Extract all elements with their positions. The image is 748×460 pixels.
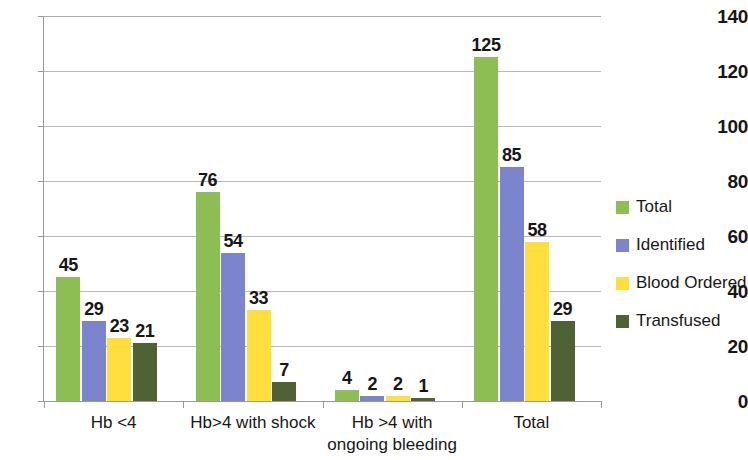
y-axis-tick-mark bbox=[38, 181, 44, 182]
legend-item[interactable]: Identified bbox=[616, 236, 747, 274]
x-axis-tick-mark bbox=[601, 401, 602, 408]
x-axis-tick-mark bbox=[323, 401, 324, 408]
bar-value-label: 29 bbox=[84, 300, 103, 318]
legend-swatch-icon bbox=[616, 239, 629, 252]
bar: 58 bbox=[525, 242, 549, 402]
x-axis-category-label: Hb <4 bbox=[44, 412, 183, 434]
plot-area: 4529232176543374221125855829 bbox=[44, 16, 601, 401]
legend-swatch-icon bbox=[616, 315, 629, 328]
x-axis-category-label-line: Hb>4 with shock bbox=[183, 412, 322, 434]
x-axis-category-label-line: Total bbox=[462, 412, 601, 434]
bar-value-label: 1 bbox=[419, 377, 429, 395]
y-axis-tick-mark bbox=[38, 71, 44, 72]
y-axis-line bbox=[43, 16, 44, 402]
y-axis-tick-mark bbox=[38, 291, 44, 292]
legend-label: Transfused bbox=[636, 312, 720, 330]
legend-swatch-icon bbox=[616, 201, 629, 214]
bar: 85 bbox=[500, 167, 524, 401]
bar: 7 bbox=[272, 382, 296, 401]
bar: 23 bbox=[107, 338, 131, 401]
y-axis-tick-mark bbox=[38, 126, 44, 127]
bar-value-label: 54 bbox=[223, 232, 242, 250]
bar-value-label: 76 bbox=[198, 171, 217, 189]
y-axis-tick-label: 140 bbox=[712, 7, 748, 26]
x-axis-tick-mark bbox=[462, 401, 463, 408]
legend-label: Identified bbox=[636, 236, 705, 254]
bar-value-label: 29 bbox=[553, 300, 572, 318]
x-axis-category-label-line: ongoing bleeding bbox=[323, 434, 462, 456]
y-axis-tick-label: 100 bbox=[712, 117, 748, 136]
gridline bbox=[44, 16, 601, 17]
y-axis-tick-mark bbox=[38, 16, 44, 17]
bar-value-label: 45 bbox=[59, 256, 78, 274]
bar-value-label: 21 bbox=[135, 322, 154, 340]
gridline bbox=[44, 71, 601, 72]
x-axis-tick-mark bbox=[44, 401, 45, 408]
bar: 29 bbox=[82, 321, 106, 401]
bar-value-label: 2 bbox=[368, 375, 378, 393]
x-axis-category-label: Total bbox=[462, 412, 601, 434]
legend-item[interactable]: Transfused bbox=[616, 312, 747, 350]
x-axis-category-label-line: Hb <4 bbox=[44, 412, 183, 434]
gridline bbox=[44, 126, 601, 127]
bar: 76 bbox=[196, 192, 220, 401]
legend-label: Blood Ordered bbox=[636, 274, 747, 292]
bar: 125 bbox=[474, 57, 498, 401]
bar: 29 bbox=[551, 321, 575, 401]
bar-value-label: 4 bbox=[342, 369, 352, 387]
bar: 54 bbox=[221, 253, 245, 402]
bar-value-label: 23 bbox=[110, 317, 129, 335]
bar-value-label: 85 bbox=[502, 146, 521, 164]
y-axis-tick-label: 120 bbox=[712, 62, 748, 81]
bar-chart: 4529232176543374221125855829 02040608010… bbox=[0, 0, 748, 460]
legend-item[interactable]: Total bbox=[616, 198, 747, 236]
bar-value-label: 2 bbox=[393, 375, 403, 393]
bar-value-label: 33 bbox=[249, 289, 268, 307]
legend-item[interactable]: Blood Ordered bbox=[616, 274, 747, 312]
bar-value-label: 7 bbox=[279, 361, 289, 379]
bar: 21 bbox=[133, 343, 157, 401]
legend-swatch-icon bbox=[616, 277, 629, 290]
y-axis-tick-label: 80 bbox=[712, 172, 748, 191]
bar-value-label: 58 bbox=[527, 221, 546, 239]
y-axis-tick-mark bbox=[38, 236, 44, 237]
x-axis-tick-mark bbox=[183, 401, 184, 408]
chart-legend: TotalIdentifiedBlood OrderedTransfused bbox=[616, 198, 747, 350]
y-axis-tick-mark bbox=[38, 346, 44, 347]
bar: 4 bbox=[335, 390, 359, 401]
x-axis-category-label: Hb>4 with shock bbox=[183, 412, 322, 434]
x-axis-category-label: Hb >4 withongoing bleeding bbox=[323, 412, 462, 456]
bar: 33 bbox=[247, 310, 271, 401]
y-axis-tick-label: 0 bbox=[712, 392, 748, 411]
bar: 45 bbox=[56, 277, 80, 401]
x-axis-category-label-line: Hb >4 with bbox=[323, 412, 462, 434]
legend-label: Total bbox=[636, 198, 672, 216]
bar-value-label: 125 bbox=[472, 36, 501, 54]
